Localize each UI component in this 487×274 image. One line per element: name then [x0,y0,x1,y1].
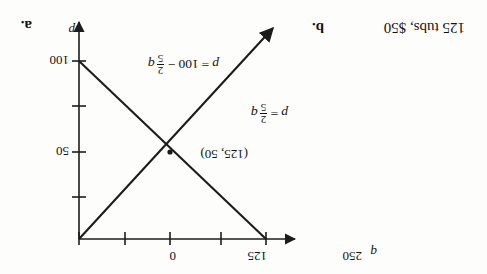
answer-b-text: 125 tubs, $50 [384,20,465,35]
x-axis [79,232,295,245]
demand-eq-minus: − [168,58,176,72]
demand-eq-fraction: 2 5 [157,53,165,76]
figure-canvas: 0 125 250 q 50 100 p (125, 50) p = 100 −… [0,0,487,274]
equilibrium-point [167,149,172,154]
supply-eq-numerator: 2 [260,114,268,125]
supply-equation: p = 2 5 q [251,102,288,125]
x-axis-name: q [371,246,378,259]
y-axis [72,22,86,239]
x-tick-label-125: 125 [248,250,268,263]
demand-equation: p = 100 − 2 5 q [148,53,219,76]
supply-eq-lhs: p [281,107,288,121]
y-tick-label-100: 100 [50,54,70,67]
supply-eq-fraction: 2 5 [260,102,268,125]
demand-eq-numerator: 2 [157,65,165,76]
demand-eq-equals: = [202,58,210,72]
supply-eq-equals: = [271,107,279,121]
supply-eq-variable: q [251,107,258,121]
equilibrium-label: (125, 50) [200,148,248,161]
y-axis-name: p [69,24,76,37]
demand-eq-variable: q [148,58,155,72]
y-tick-label-50: 50 [56,145,69,158]
demand-eq-lhs: p [212,58,219,72]
supply-eq-denominator: 5 [260,102,268,114]
demand-eq-denominator: 5 [157,53,165,65]
x-tick-label-250: 250 [343,250,363,263]
answer-b-label: b. [312,20,324,35]
graph-svg [0,0,487,274]
answer-a-label: a. [21,18,32,33]
demand-eq-intercept: 100 [178,58,198,72]
x-tick-label-0: 0 [170,250,177,263]
